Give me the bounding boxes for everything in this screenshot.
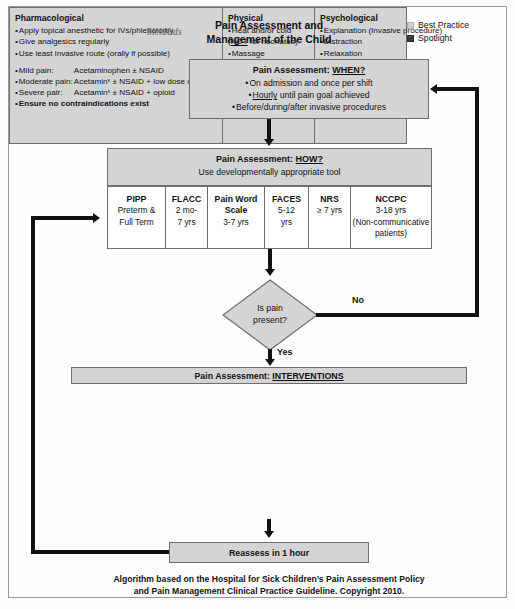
arrow-loop-into-tools-icon: [93, 213, 100, 223]
psych-item-2: Relaxation: [320, 48, 402, 59]
legend-label-best-practice: Best Practice: [418, 19, 469, 32]
arrow-no-into-when-icon: [430, 84, 437, 94]
connector-loop-vertical-left: [31, 216, 35, 554]
interventions-title-prefix: Pain Assessment:: [194, 371, 269, 381]
how-title-keyword: HOW?: [296, 154, 324, 164]
tool-flacc-line1: 2 mo-: [166, 205, 207, 216]
pharm-dose-moderate-wrap: Moderate pain:Acetaminˣ ± NSAID + low do…: [19, 76, 209, 87]
legend: Best Practice Spotlight: [407, 19, 469, 45]
spotlight-swatch-icon: [407, 35, 414, 42]
pharm-dose-moderate-label: Moderate pain:: [19, 76, 74, 87]
footer-line2: and Pain Management Clinical Practice Gu…: [49, 585, 489, 597]
assessment-tools-row: PIPP Preterm & Full Term FLACC 2 mo- 7 y…: [107, 186, 432, 249]
tool-pain-word-scale-name: Pain WordScale: [208, 194, 264, 217]
footer-line1: Algorithm based on the Hospital for Sick…: [49, 573, 489, 585]
decision-label-line2: present?: [222, 314, 318, 326]
pharm-dose-severe: Severe pair:Acetaminˣ ± NSAID + opioid: [15, 87, 218, 98]
algorithm-frame: SickKids Pain Assessment and Management …: [8, 6, 507, 598]
reassess-box: Reassess in 1 hour: [169, 542, 369, 563]
tool-faces: FACES 5-12 yrs: [265, 187, 309, 248]
when-item-0: On admission and once per shift: [190, 77, 428, 89]
arrow-when-to-how-icon: [264, 139, 274, 146]
connector-loop-horizontal-bottom: [31, 550, 169, 554]
pharm-dose-mild-label: Mild pain:: [19, 65, 74, 76]
connector-no-horizontal: [316, 313, 479, 317]
tool-nccpc-name: NCCPC: [351, 194, 431, 205]
connector-when-to-how: [267, 119, 271, 141]
when-box-list: On admission and once per shift Hourly u…: [190, 77, 428, 114]
pain-assessment-how-box: Pain Assessment: HOW? Use developmentall…: [107, 148, 432, 186]
tool-nccpc-line2: (Non-communicative: [351, 217, 431, 228]
tool-faces-line1: 5-12: [265, 205, 308, 216]
tool-flacc-name: FLACC: [166, 194, 207, 205]
page-title-line1: Pain Assessment and: [169, 18, 369, 32]
pharm-item-contraindications: Ensure no contraindications exist: [15, 98, 218, 109]
connector-loop-horizontal-top: [31, 216, 93, 220]
tool-faces-line2: yrs: [265, 217, 308, 228]
algorithm-page: SickKids Pain Assessment and Management …: [0, 0, 515, 609]
when-title-keyword: WHEN?: [332, 65, 365, 75]
tool-pipp-line2: Full Term: [108, 217, 165, 228]
pharm-dose-mild-value: Acetaminophen ± NSAID: [74, 66, 164, 75]
connector-no-vertical: [475, 87, 479, 317]
tool-pipp-name: PIPP: [108, 194, 165, 205]
how-box-title: Pain Assessment: HOW?: [108, 154, 431, 164]
decision-edge-label-no: No: [352, 295, 364, 305]
arrow-tools-to-decision-icon: [265, 269, 275, 276]
when-item-1: Hourly until pain goal achieved: [190, 89, 428, 101]
pain-assessment-when-box: Pain Assessment: WHEN? On admission and …: [189, 59, 429, 119]
pharm-dose-severe-wrap: Severe pair:Acetaminˣ ± NSAID + opioid: [19, 87, 175, 98]
tool-nrs: NRS ≥ 7 yrs: [309, 187, 351, 248]
interventions-title-keyword: INTERVENTIONS: [272, 371, 343, 381]
when-item-2: Before/during/after invasive procedures: [190, 101, 428, 113]
pharm-item-2: Use least invasive route (orally if poss…: [15, 48, 218, 59]
when-item-1-rest: until pain goal achieved: [277, 90, 369, 100]
interventions-header: Pain Assessment: INTERVENTIONS: [71, 367, 467, 384]
page-title-line2: Management of the Child: [169, 32, 369, 46]
tool-pain-word-scale: Pain WordScale 3-7 yrs: [208, 187, 265, 248]
tool-nccpc-line1: 3-18 yrs: [351, 205, 431, 216]
decision-label: Is pain present?: [222, 302, 318, 326]
pharm-dose-severe-label: Severe pair:: [19, 87, 74, 98]
tool-nrs-name: NRS: [309, 194, 350, 205]
footer-note: Algorithm based on the Hospital for Sick…: [49, 573, 489, 597]
pharm-dose-mild: Mild pain:Acetaminophen ± NSAID: [15, 65, 218, 76]
best-practice-swatch-icon: [407, 22, 414, 29]
tool-pws-word1: Pain Word: [215, 194, 258, 204]
arrow-interventions-to-reassess-icon: [264, 531, 274, 538]
arrow-yes-to-interventions-icon: [265, 359, 275, 366]
physical-item-2: Massage: [228, 48, 310, 59]
legend-label-spotlight: Spotlight: [418, 32, 452, 45]
reassess-label: Reassess in 1 hour: [170, 548, 368, 558]
decision-is-pain-present: Is pain present?: [222, 279, 318, 351]
when-title-prefix: Pain Assessment:: [253, 65, 330, 75]
tool-faces-name: FACES: [265, 194, 308, 205]
tool-pipp: PIPP Preterm & Full Term: [108, 187, 166, 248]
tool-pws-word2: Scale: [225, 205, 248, 215]
how-box-subtitle: Use developmentally appropriate tool: [108, 167, 431, 177]
how-title-prefix: Pain Assessment:: [216, 154, 293, 164]
decision-edge-label-yes: Yes: [277, 347, 293, 357]
when-item-1-keyword: Hourly: [252, 90, 277, 100]
connector-tools-to-decision: [268, 249, 272, 271]
tool-flacc: FLACC 2 mo- 7 yrs: [166, 187, 208, 248]
legend-item-best-practice: Best Practice: [407, 19, 469, 32]
legend-item-spotlight: Spotlight: [407, 32, 469, 45]
page-title: Pain Assessment and Management of the Ch…: [169, 18, 369, 46]
tool-nccpc: NCCPC 3-18 yrs (Non-communicative patien…: [351, 187, 431, 248]
pharm-dose-mild-wrap: Mild pain:Acetaminophen ± NSAID: [19, 65, 164, 76]
interventions-title: Pain Assessment: INTERVENTIONS: [72, 371, 466, 381]
pharm-dose-moderate: Moderate pain:Acetaminˣ ± NSAID + low do…: [15, 76, 218, 87]
tool-pain-word-scale-line1: 3-7 yrs: [208, 217, 264, 228]
tool-pipp-line1: Preterm &: [108, 205, 165, 216]
tool-nccpc-line3: patients): [351, 228, 431, 239]
tool-nrs-line1: ≥ 7 yrs: [309, 205, 350, 216]
pharm-dose-severe-value: Acetaminˣ ± NSAID + opioid: [74, 88, 175, 97]
decision-label-line1: Is pain: [222, 302, 318, 314]
connector-no-return: [437, 87, 477, 91]
when-box-title: Pain Assessment: WHEN?: [190, 65, 428, 75]
tool-flacc-line2: 7 yrs: [166, 217, 207, 228]
